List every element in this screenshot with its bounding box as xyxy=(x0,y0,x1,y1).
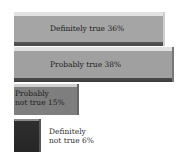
bar-label-line2: not true 6% xyxy=(49,136,94,145)
bar-label-definitely-not-true: Definitely not true 6% xyxy=(49,127,94,145)
bar-definitely-not-true xyxy=(14,119,41,152)
bar-probably-not-true: Probably not true 15% xyxy=(14,84,79,115)
bar-label-definitely-true: Definitely true 36% xyxy=(50,24,124,33)
bar-label-probably-not-true: Probably not true 15% xyxy=(15,89,79,107)
bar-label-line1: Probably xyxy=(15,89,49,98)
bar-label-probably-true: Probably true 38% xyxy=(50,60,121,69)
bar-label-line1: Definitely xyxy=(49,127,86,136)
bar-label-line2: not true 15% xyxy=(15,98,65,107)
bar-definitely-true: Definitely true 36% xyxy=(14,12,165,46)
bar-probably-true: Probably true 38% xyxy=(14,47,174,82)
